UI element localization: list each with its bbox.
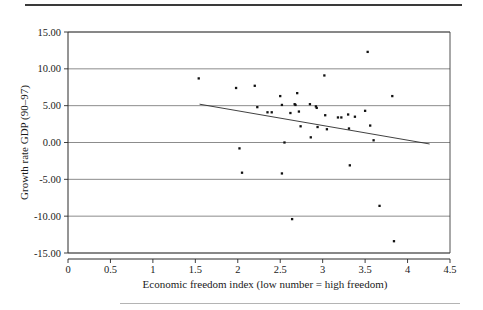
x-axis-title: Economic freedom index (low number = hig… (143, 278, 388, 291)
y-tick-label: -15.00 (34, 248, 61, 259)
data-point (367, 51, 369, 53)
trendline-segment (200, 104, 430, 144)
y-tick-label: 5.00 (43, 100, 61, 111)
data-point (354, 116, 356, 118)
gridline-group (68, 32, 450, 253)
axis-labels: Economic freedom index (low number = hig… (18, 85, 388, 291)
data-points (198, 51, 396, 243)
figure-container: 15.0010.005.000.00-5.00-10.00-15.00 00.5… (0, 0, 483, 310)
data-point (291, 218, 293, 220)
x-tick-label: 1.5 (189, 264, 202, 275)
data-point (349, 164, 351, 166)
y-tick-label: 15.00 (37, 27, 61, 38)
data-point (348, 127, 350, 129)
y-tick-label: 10.00 (37, 63, 61, 74)
data-point (310, 136, 312, 138)
x-tick-label: 2 (235, 264, 240, 275)
x-tick-label: 2.5 (274, 264, 287, 275)
x-tick-label: 4.5 (443, 264, 456, 275)
data-point (316, 126, 318, 128)
data-point (391, 95, 393, 97)
data-point (324, 114, 326, 116)
y-axis: 15.0010.005.000.00-5.00-10.00-15.00 (34, 27, 68, 259)
data-point (266, 111, 268, 113)
x-tick-label: 3 (320, 264, 325, 275)
data-point (298, 110, 300, 112)
data-point (281, 104, 283, 106)
data-point (271, 111, 273, 113)
data-point (393, 240, 395, 242)
scatter-plot: 15.0010.005.000.00-5.00-10.00-15.00 00.5… (0, 0, 483, 310)
data-point (337, 116, 339, 118)
data-point (364, 110, 366, 112)
data-point (256, 106, 258, 108)
data-point (372, 139, 374, 141)
x-tick-label: 4 (405, 264, 411, 275)
data-point (316, 107, 318, 109)
y-tick-label: 0.00 (43, 137, 61, 148)
data-point (378, 205, 380, 207)
data-point (296, 92, 298, 94)
x-axis: 00.511.522.533.544.5 (65, 259, 456, 275)
x-tick-label: 1 (150, 264, 155, 275)
data-point (254, 85, 256, 87)
data-point (294, 104, 296, 106)
data-point (281, 172, 283, 174)
data-point (326, 128, 328, 130)
y-tick-label: -10.00 (34, 211, 61, 222)
trendline (200, 104, 430, 144)
data-point (279, 95, 281, 97)
data-point (369, 124, 371, 126)
x-tick-label: 3.5 (359, 264, 372, 275)
data-point (198, 77, 200, 79)
data-point (347, 113, 349, 115)
data-point (309, 103, 311, 105)
data-point (340, 116, 342, 118)
data-point (241, 172, 243, 174)
data-point (323, 74, 325, 76)
data-point (299, 125, 301, 127)
data-point (235, 87, 237, 89)
x-tick-label: 0.5 (104, 264, 117, 275)
x-tick-label: 0 (65, 264, 70, 275)
data-point (238, 147, 240, 149)
data-point (289, 112, 291, 114)
y-axis-title: Growth rate GDP (90–97) (18, 85, 31, 200)
y-tick-label: -5.00 (39, 174, 61, 185)
data-point (283, 141, 285, 143)
